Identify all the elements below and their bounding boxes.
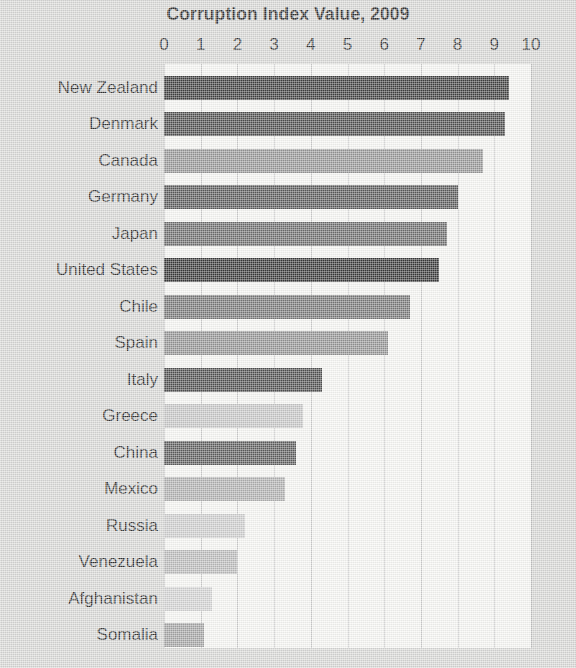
category-label-denmark: Denmark (0, 114, 158, 134)
bar-afghanistan (164, 587, 212, 611)
bar-united-states (164, 258, 439, 282)
bar-chile (164, 295, 410, 319)
category-label-chile: Chile (0, 297, 158, 317)
bar-china (164, 441, 296, 465)
bar-italy (164, 368, 322, 392)
category-axis-labels: New ZealandDenmarkCanadaGermanyJapanUnit… (0, 64, 158, 648)
bar-mexico (164, 477, 285, 501)
chart-title: Corruption Index Value, 2009 (0, 4, 576, 25)
bars-layer (164, 64, 531, 648)
category-label-venezuela: Venezuela (0, 552, 158, 572)
category-label-spain: Spain (0, 333, 158, 353)
category-label-afghanistan: Afghanistan (0, 589, 158, 609)
bar-somalia (164, 623, 204, 647)
x-tick-label-2: 2 (233, 35, 242, 55)
plot-area (164, 64, 532, 648)
category-label-russia: Russia (0, 516, 158, 536)
category-label-mexico: Mexico (0, 479, 158, 499)
x-tick-label-5: 5 (343, 35, 352, 55)
bar-germany (164, 185, 458, 209)
category-label-greece: Greece (0, 406, 158, 426)
x-axis-tick-labels: 012345678910 (164, 35, 531, 59)
x-tick-label-0: 0 (159, 35, 168, 55)
bar-japan (164, 222, 447, 246)
category-label-canada: Canada (0, 151, 158, 171)
category-label-united-states: United States (0, 260, 158, 280)
category-label-new-zealand: New Zealand (0, 78, 158, 98)
bar-greece (164, 404, 303, 428)
category-label-somalia: Somalia (0, 625, 158, 645)
x-tick-label-3: 3 (269, 35, 278, 55)
bar-venezuela (164, 550, 237, 574)
category-label-china: China (0, 443, 158, 463)
bar-new-zealand (164, 76, 509, 100)
bar-spain (164, 331, 388, 355)
category-label-germany: Germany (0, 187, 158, 207)
bar-denmark (164, 112, 505, 136)
bar-canada (164, 149, 483, 173)
x-tick-label-10: 10 (522, 35, 541, 55)
x-tick-label-9: 9 (490, 35, 499, 55)
x-tick-label-7: 7 (416, 35, 425, 55)
x-tick-label-6: 6 (379, 35, 388, 55)
corruption-index-bar-chart: Corruption Index Value, 2009 01234567891… (0, 0, 576, 668)
category-label-japan: Japan (0, 224, 158, 244)
bar-russia (164, 514, 245, 538)
x-tick-label-1: 1 (196, 35, 205, 55)
x-tick-label-4: 4 (306, 35, 315, 55)
x-tick-label-8: 8 (453, 35, 462, 55)
category-label-italy: Italy (0, 370, 158, 390)
